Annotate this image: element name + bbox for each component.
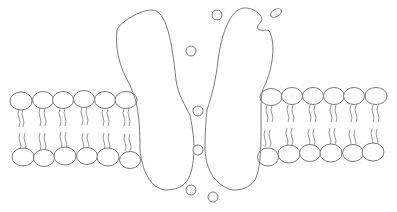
left-upper-lipid-heads xyxy=(10,91,137,111)
ion xyxy=(212,10,222,20)
ion xyxy=(193,145,203,155)
ion xyxy=(269,7,283,19)
ion xyxy=(208,192,218,202)
left-lower-lipid-tails xyxy=(19,132,131,151)
left-upper-lipid-tails xyxy=(18,107,130,127)
ion xyxy=(186,46,196,56)
membrane-channel-diagram xyxy=(0,0,397,212)
right-lower-lipid-tails xyxy=(264,128,378,147)
right-upper-lipid-heads xyxy=(260,88,387,106)
left-lower-lipid-heads xyxy=(12,147,141,169)
ion xyxy=(193,106,203,116)
right-lower-lipid-heads xyxy=(258,143,385,166)
ion xyxy=(186,185,196,195)
right-upper-lipid-tails xyxy=(266,105,379,122)
